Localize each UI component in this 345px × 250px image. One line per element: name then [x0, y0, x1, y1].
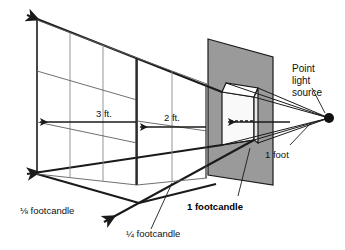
label-2-ft: 2 ft.: [164, 112, 180, 123]
label-eighth-footcandle: ⅛ footcandle: [20, 205, 74, 216]
label-one-foot: 1 foot: [265, 149, 289, 160]
label-quarter-footcandle: ¼ footcandle: [126, 228, 180, 239]
one-footcandle-plane: [208, 39, 273, 185]
aperture-side-face: [254, 88, 258, 143]
aperture-front-face: [222, 92, 254, 145]
inverse-square-law-figure: Point light source 1 foot 3 ft. 2 ft. 1 …: [0, 0, 345, 250]
label-point-light-source-line3: source: [292, 87, 322, 98]
illumination-diagram: Point light source 1 foot 3 ft. 2 ft. 1 …: [0, 0, 345, 250]
point-light-source-dot: [324, 113, 334, 123]
label-point-light-source-line1: Point: [292, 63, 315, 74]
label-1-footcandle: 1 footcandle: [187, 201, 243, 212]
label-point-light-source-line2: light: [292, 75, 311, 86]
label-3-ft: 3 ft.: [96, 108, 112, 119]
